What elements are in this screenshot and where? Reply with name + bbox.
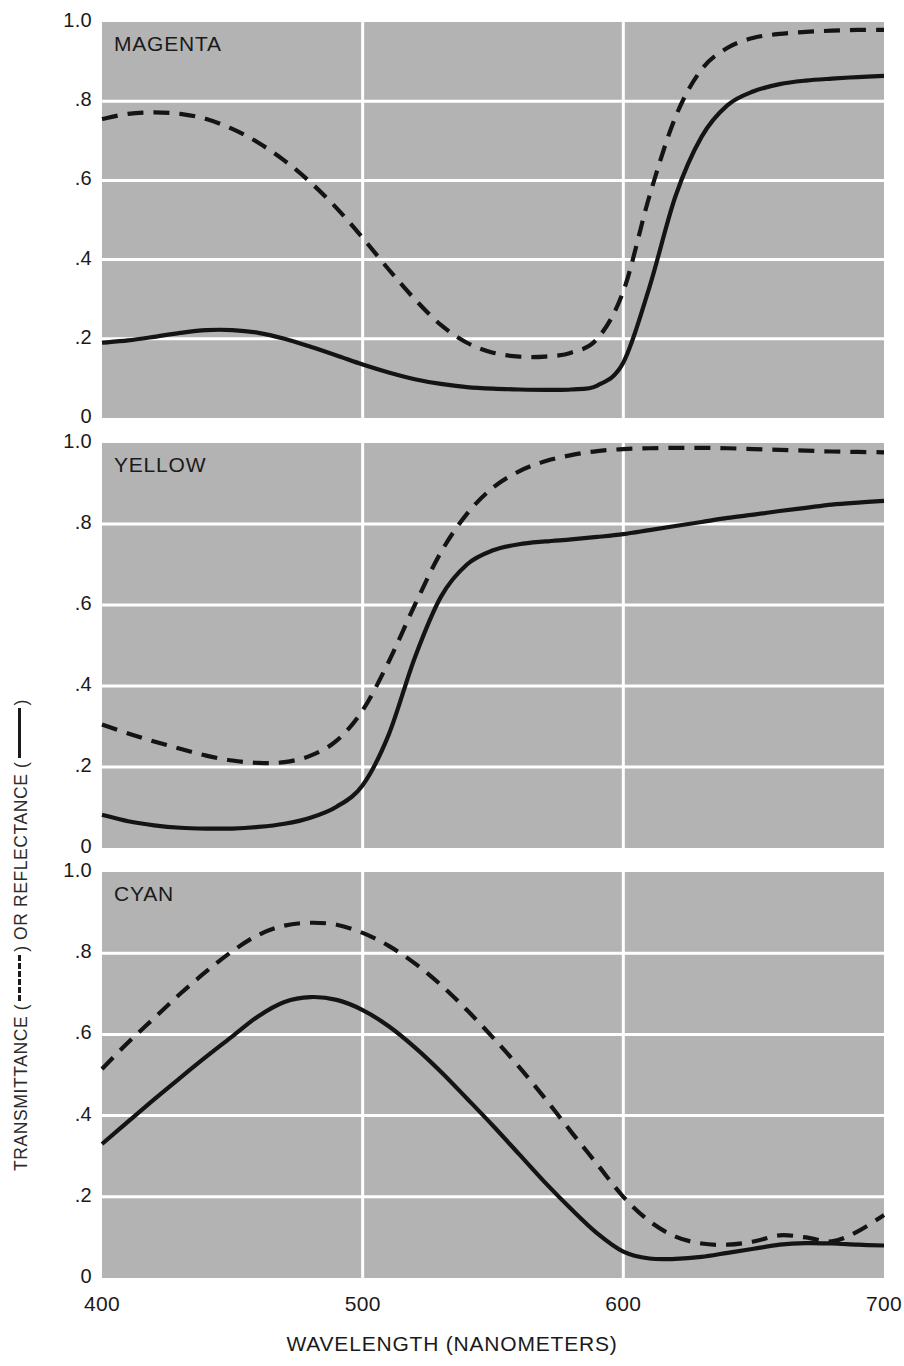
y-tick-label: .8: [34, 511, 92, 534]
panel-title-magenta: MAGENTA: [114, 32, 222, 56]
y-tick-label: .4: [34, 1103, 92, 1126]
panel-background: [102, 872, 884, 1278]
panel-title-yellow: YELLOW: [114, 453, 206, 477]
y-tick-label: .8: [34, 88, 92, 111]
y-tick-label: 0: [34, 835, 92, 858]
x-tick-label: 500: [323, 1292, 403, 1316]
plot-canvas: [0, 0, 904, 1366]
y-tick-label: 1.0: [34, 859, 92, 882]
y-tick-label: 1.0: [34, 9, 92, 32]
y-tick-label: .4: [34, 247, 92, 270]
y-tick-label: .2: [34, 326, 92, 349]
y-tick-label: .6: [34, 167, 92, 190]
y-tick-label: 0: [34, 405, 92, 428]
y-tick-label: .6: [34, 1021, 92, 1044]
x-tick-label: 400: [62, 1292, 142, 1316]
y-tick-label: 0: [34, 1265, 92, 1288]
panel-yellow: [102, 443, 884, 848]
x-tick-label: 700: [844, 1292, 904, 1316]
panel-cyan: [102, 872, 884, 1278]
panel-background: [102, 443, 884, 848]
y-tick-label: .4: [34, 673, 92, 696]
spectral-reflectance-figure: TRANSMITTANCE ( ) OR REFLECTANCE ( ) MAG…: [0, 0, 904, 1366]
y-tick-label: .8: [34, 940, 92, 963]
panel-background: [102, 22, 884, 418]
y-tick-label: 1.0: [34, 430, 92, 453]
panel-title-cyan: CYAN: [114, 882, 174, 906]
x-axis-title: WAVELENGTH (NANOMETERS): [0, 1332, 904, 1356]
y-tick-label: .2: [34, 1184, 92, 1207]
x-tick-label: 600: [583, 1292, 663, 1316]
y-tick-label: .2: [34, 754, 92, 777]
y-tick-label: .6: [34, 592, 92, 615]
panel-magenta: [102, 22, 884, 418]
